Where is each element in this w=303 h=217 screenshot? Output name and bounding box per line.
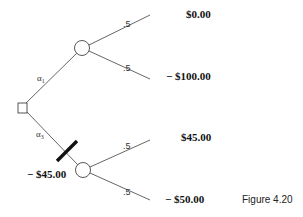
branch-outcome-3-1 [90,140,150,167]
branch-alternative-1 [26,53,77,103]
alternative-1-label: α1 [37,73,45,84]
payoff-label: $0.00 [186,8,211,20]
payoff-label: − $100.00 [166,70,211,82]
branch-outcome-3-2 [90,173,150,200]
branch-outcome-1-2 [89,51,150,79]
decision-tree [0,0,303,217]
chance-node-1-circle [75,41,90,56]
alternative-3-label: α3 [36,129,44,140]
alternative-3-cost: − $45.00 [27,168,66,180]
probability-label: .5 [123,141,131,151]
payoff-label: $45.00 [181,131,211,143]
branch-outcome-1-1 [89,15,150,45]
chance-node-3-circle [76,163,91,178]
payoff-label: − $50.00 [165,193,204,205]
probability-label: .5 [123,63,131,73]
figure-caption: Figure 4.20 [242,194,293,205]
probability-label: .5 [123,19,131,29]
decision-node-square [18,103,27,113]
branch-alternative-3 [27,112,78,165]
probability-label: .5 [123,187,131,197]
pruned-branch-marker-icon [57,141,77,161]
